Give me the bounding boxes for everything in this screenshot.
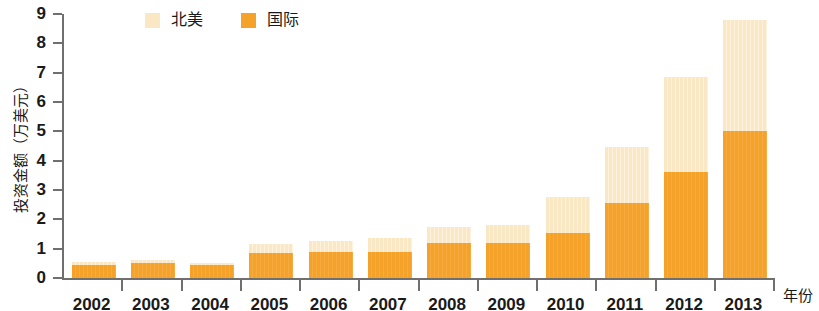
y-tick-mark: [53, 72, 62, 74]
x-tick-label: 2005: [240, 296, 299, 311]
x-tick-mark: [714, 280, 716, 291]
x-tick-mark: [477, 280, 479, 291]
bar-segment-international[interactable]: [249, 253, 293, 278]
y-tick-label: 8: [24, 34, 46, 51]
x-tick-mark: [240, 280, 242, 291]
bar-stack: [190, 263, 234, 278]
x-tick-label: 2010: [536, 296, 595, 311]
bar-stack: [249, 244, 293, 278]
bar-segment-international[interactable]: [368, 252, 412, 278]
y-tick-mark: [53, 189, 62, 191]
y-tick-mark: [53, 277, 62, 279]
y-tick-mark: [53, 160, 62, 162]
bar-segment-international[interactable]: [427, 243, 471, 278]
bar-group[interactable]: [242, 14, 301, 278]
y-tick-label: 6: [24, 93, 46, 110]
y-tick-label: 0: [24, 269, 46, 286]
x-tick-mark: [655, 280, 657, 291]
bar-group[interactable]: [183, 14, 242, 278]
y-axis-title: 投资金额（万美元）: [9, 20, 33, 270]
x-tick-mark: [595, 280, 597, 291]
y-tick-mark: [53, 13, 62, 15]
x-tick-mark: [418, 280, 420, 291]
bar-stack: [131, 260, 175, 278]
bar-group[interactable]: [597, 14, 656, 278]
bar-group[interactable]: [538, 14, 597, 278]
y-tick-label: 4: [24, 152, 46, 169]
bar-group[interactable]: [64, 14, 123, 278]
x-tick-mark: [299, 280, 301, 291]
bar-stack: [546, 197, 590, 278]
bar-segment-international[interactable]: [309, 252, 353, 278]
y-tick-label: 7: [24, 64, 46, 81]
stacked-bar-chart: 投资金额（万美元） 北美国际 0123456789 20022003200420…: [0, 0, 819, 311]
y-tick-mark: [53, 42, 62, 44]
y-tick-label: 1: [24, 240, 46, 257]
bar-stack: [72, 262, 116, 278]
bar-group[interactable]: [301, 14, 360, 278]
x-tick-mark: [181, 280, 183, 291]
y-tick-label: 5: [24, 122, 46, 139]
x-tick-label: 2006: [299, 296, 358, 311]
bar-segment-international[interactable]: [190, 265, 234, 278]
bar-segment-north-america[interactable]: [723, 20, 767, 131]
bar-segment-international[interactable]: [72, 265, 116, 278]
bar-segment-international[interactable]: [605, 203, 649, 278]
bar-stack: [427, 227, 471, 278]
bar-group[interactable]: [657, 14, 716, 278]
y-tick-label: 3: [24, 181, 46, 198]
bar-stack: [605, 147, 649, 278]
x-axis-title: 年份: [783, 288, 813, 303]
bar-segment-north-america[interactable]: [486, 225, 530, 243]
x-tick-mark: [773, 280, 775, 291]
x-tick-mark: [536, 280, 538, 291]
bar-segment-international[interactable]: [546, 233, 590, 278]
bar-segment-north-america[interactable]: [605, 147, 649, 203]
x-tick-label: 2012: [655, 296, 714, 311]
bar-segment-north-america[interactable]: [309, 241, 353, 251]
bar-segment-north-america[interactable]: [249, 244, 293, 253]
x-tick-label: 2008: [418, 296, 477, 311]
bar-stack: [664, 77, 708, 278]
x-tick-label: 2009: [477, 296, 536, 311]
plot-area: 0123456789 20022003200420052006200720082…: [62, 14, 775, 278]
bar-stack: [723, 20, 767, 278]
bar-group[interactable]: [123, 14, 182, 278]
x-tick-label: 2013: [714, 296, 773, 311]
y-tick-mark: [53, 130, 62, 132]
bar-segment-north-america[interactable]: [368, 238, 412, 251]
bar-series-container: [64, 14, 775, 278]
bar-stack: [486, 225, 530, 278]
x-tick-mark: [358, 280, 360, 291]
bar-stack: [309, 241, 353, 278]
y-tick-mark: [53, 248, 62, 250]
bar-segment-north-america[interactable]: [664, 77, 708, 172]
bar-stack: [368, 238, 412, 278]
bar-group[interactable]: [479, 14, 538, 278]
x-tick-label: 2003: [121, 296, 180, 311]
bar-segment-north-america[interactable]: [546, 197, 590, 232]
x-tick-label: 2011: [595, 296, 654, 311]
bar-group[interactable]: [420, 14, 479, 278]
bar-segment-international[interactable]: [723, 131, 767, 278]
y-tick-label: 2: [24, 210, 46, 227]
x-tick-label: 2002: [62, 296, 121, 311]
x-tick-mark: [121, 280, 123, 291]
x-tick-label: 2004: [181, 296, 240, 311]
bar-segment-international[interactable]: [131, 263, 175, 278]
bar-group[interactable]: [360, 14, 419, 278]
y-tick-mark: [53, 218, 62, 220]
bar-segment-north-america[interactable]: [427, 227, 471, 243]
x-tick-label: 2007: [358, 296, 417, 311]
y-tick-mark: [53, 101, 62, 103]
bar-segment-international[interactable]: [486, 243, 530, 278]
y-tick-label: 9: [24, 5, 46, 22]
bar-group[interactable]: [716, 14, 775, 278]
bar-segment-international[interactable]: [664, 172, 708, 278]
